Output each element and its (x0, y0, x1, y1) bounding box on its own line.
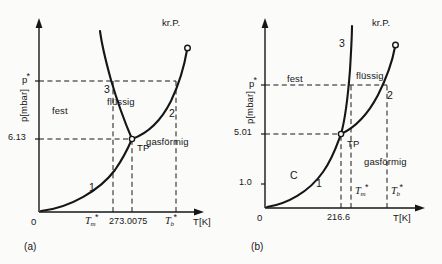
y-tick-pstar-star: * (26, 71, 30, 81)
sublimation-curve-1 (267, 134, 341, 207)
y-tick-label-501: 5.01 (234, 128, 252, 137)
x-axis-label: T[K] (393, 213, 411, 223)
x-tick-tm-star: * (95, 212, 99, 222)
x-axis-arrowhead (415, 205, 425, 212)
y-tick-pstar-star: * (253, 75, 257, 85)
curve-label-3: 3 (104, 84, 110, 95)
panel-caption-b: (b) (251, 242, 264, 252)
panel-b-plot (221, 0, 442, 264)
x-tick-label-tb: Tb* (391, 186, 404, 197)
y-axis-label: p[mbar] (19, 89, 29, 122)
region-label-fest: fest (287, 74, 303, 84)
phase-diagram-panel-b: p[mbar] p* 5.01 1.0 0 216.6 Tm* Tb* T[K]… (221, 0, 442, 264)
origin-label: 0 (257, 213, 262, 223)
x-tick-label-tb: Tb* (165, 216, 178, 227)
critical-point-label: kr.P. (162, 18, 180, 28)
x-tick-label-tm: Tm* (355, 186, 370, 197)
y-axis-arrowhead (36, 18, 43, 28)
critical-point-marker (393, 42, 399, 48)
critical-point-label: kr.P. (372, 18, 390, 28)
x-tick-label-tm: Tm* (85, 216, 100, 227)
origin-label: 0 (31, 217, 36, 227)
region-label-fluessig: flüssig (356, 71, 384, 81)
phase-diagram-figure: p[mbar] p* 6.13 0 Tm* 273.0075 Tb* T[K] … (0, 0, 442, 264)
triple-point-marker (338, 131, 343, 136)
x-tick-label-273: 273.0075 (109, 217, 147, 226)
y-tick-label-613: 6.13 (8, 133, 26, 142)
triple-point-marker (129, 136, 134, 141)
curve-label-3: 3 (339, 38, 345, 49)
y-tick-label-pstar: p* (22, 75, 31, 85)
region-label-fest: fest (52, 106, 68, 116)
y-axis-label: p[mbar] (245, 91, 255, 124)
critical-point-marker (185, 45, 191, 51)
panel-caption-a: (a) (24, 242, 37, 252)
vaporization-curve-2 (132, 50, 187, 139)
curve-label-2: 2 (169, 108, 175, 119)
x-tick-tb-star: * (400, 182, 404, 192)
x-tick-tm-star: * (365, 182, 369, 192)
y-tick-label-pstar: p* (249, 79, 258, 89)
region-label-gasfoermig: gasförmig (364, 157, 407, 167)
region-label-fluessig: flüssig (107, 97, 135, 107)
label-c: C (290, 170, 298, 181)
triple-point-label: TP (137, 143, 149, 153)
curve-label-1: 1 (89, 182, 95, 193)
x-tick-tb-star: * (174, 212, 178, 222)
curve-label-2: 2 (387, 90, 393, 101)
x-axis-arrowhead (194, 209, 204, 216)
triple-point-label: TP (347, 139, 359, 149)
phase-diagram-panel-a: p[mbar] p* 6.13 0 Tm* 273.0075 Tb* T[K] … (0, 0, 221, 264)
region-label-gasfoermig: gasförmig (146, 137, 189, 147)
curve-label-1: 1 (316, 178, 322, 189)
sublimation-curve-1 (41, 139, 132, 211)
x-tick-label-2166: 216.6 (327, 213, 350, 222)
y-axis-arrowhead (262, 18, 269, 28)
x-axis-label: T[K] (193, 217, 211, 227)
y-tick-label-10: 1.0 (239, 178, 252, 187)
